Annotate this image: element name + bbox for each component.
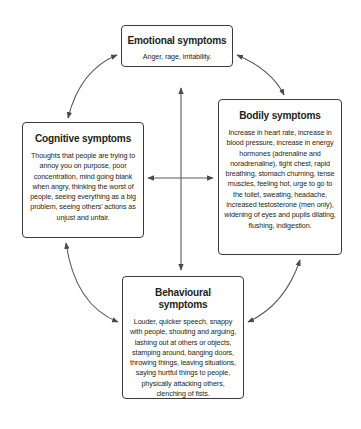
arrow-cognitive-behavioural: [66, 243, 118, 322]
emotional-symptoms-title: Emotional symptoms: [126, 34, 227, 46]
behavioural-symptoms-box: Behavioural symptoms Louder, quicker spe…: [122, 276, 244, 399]
arrow-emotional-cognitive: [68, 55, 117, 118]
bodily-symptoms-text: Increase in heart rate, increase in bloo…: [223, 128, 337, 231]
behavioural-symptoms-text: Louder, quicker speech, snappy with peop…: [127, 317, 239, 399]
behavioural-symptoms-title: Behavioural symptoms: [131, 286, 234, 310]
cognitive-symptoms-text: Thoughts that people are trying to annoy…: [27, 151, 139, 223]
arrow-bodily-behavioural: [248, 260, 300, 322]
emotional-symptoms-box: Emotional symptoms Anger, rage, irritabi…: [121, 25, 233, 67]
cognitive-symptoms-title: Cognitive symptoms: [31, 132, 134, 144]
arrow-emotional-bodily: [237, 55, 284, 95]
bodily-symptoms-title: Bodily symptoms: [228, 109, 333, 121]
emotional-symptoms-text: Anger, rage, irritability.: [122, 52, 232, 62]
cognitive-symptoms-box: Cognitive symptoms Thoughts that people …: [22, 122, 144, 238]
bodily-symptoms-box: Bodily symptoms Increase in heart rate, …: [218, 99, 342, 255]
